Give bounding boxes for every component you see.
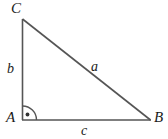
side-a-line [23, 19, 151, 120]
right-triangle-diagram: C A B b a c [0, 0, 168, 139]
side-label-c: c [81, 124, 87, 138]
vertex-label-a: A [6, 110, 15, 125]
vertex-label-c: C [11, 1, 21, 16]
side-label-a: a [91, 60, 98, 74]
vertex-label-b: B [154, 110, 163, 125]
right-angle-dot [26, 113, 30, 117]
right-angle-arc [23, 106, 37, 120]
triangle-figure [0, 0, 168, 139]
side-label-b: b [7, 62, 14, 76]
